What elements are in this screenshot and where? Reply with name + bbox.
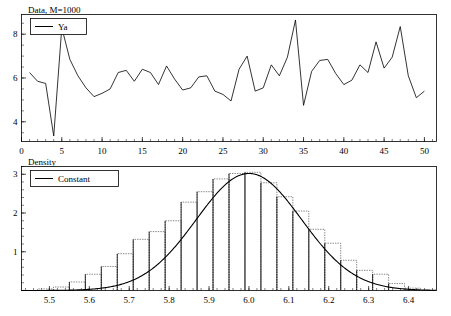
statistics-figure: Data, M=1000 468 05101520253035404550 Ya… bbox=[0, 0, 451, 316]
svg-text:2: 2 bbox=[13, 208, 18, 218]
svg-text:6.2: 6.2 bbox=[323, 295, 334, 305]
svg-text:4: 4 bbox=[13, 117, 18, 127]
svg-text:5.6: 5.6 bbox=[84, 295, 96, 305]
svg-text:25: 25 bbox=[218, 146, 228, 156]
legend-label-ya: Ya bbox=[58, 22, 68, 32]
svg-text:6.3: 6.3 bbox=[363, 295, 375, 305]
svg-text:3: 3 bbox=[13, 169, 18, 179]
svg-text:30: 30 bbox=[259, 146, 269, 156]
legend-label-constant: Constant bbox=[58, 174, 91, 184]
density-histogram bbox=[37, 172, 420, 290]
svg-text:6.1: 6.1 bbox=[283, 295, 294, 305]
svg-text:5.9: 5.9 bbox=[203, 295, 215, 305]
data-panel-y-axis: 468 bbox=[13, 23, 26, 132]
figure-container: Data, M=1000 468 05101520253035404550 Ya… bbox=[0, 0, 451, 316]
svg-text:0: 0 bbox=[19, 146, 24, 156]
svg-text:5.8: 5.8 bbox=[164, 295, 176, 305]
svg-text:5.5: 5.5 bbox=[44, 295, 56, 305]
svg-text:8: 8 bbox=[13, 29, 18, 39]
data-series-ya-line bbox=[30, 20, 425, 136]
svg-text:5.7: 5.7 bbox=[124, 295, 136, 305]
svg-text:50: 50 bbox=[420, 146, 430, 156]
svg-text:35: 35 bbox=[299, 146, 309, 156]
data-panel-x-axis: 05101520253035404550 bbox=[19, 137, 432, 156]
data-panel-title: Data, M=1000 bbox=[28, 5, 81, 15]
svg-text:5: 5 bbox=[60, 146, 65, 156]
density-panel-title: Density bbox=[28, 157, 56, 167]
svg-text:6.0: 6.0 bbox=[243, 295, 255, 305]
svg-text:15: 15 bbox=[138, 146, 148, 156]
svg-text:6.4: 6.4 bbox=[403, 295, 415, 305]
svg-text:10: 10 bbox=[98, 146, 108, 156]
svg-text:1: 1 bbox=[13, 247, 18, 257]
svg-text:45: 45 bbox=[380, 146, 390, 156]
data-panel-legend: Ya bbox=[31, 19, 87, 35]
density-panel-legend: Constant bbox=[31, 171, 119, 187]
svg-text:20: 20 bbox=[178, 146, 188, 156]
density-panel: Density 123 5.55.65.75.85.96.06.16.26.36… bbox=[13, 157, 437, 305]
data-panel: Data, M=1000 468 05101520253035404550 Ya bbox=[13, 5, 437, 156]
svg-text:6: 6 bbox=[13, 73, 18, 83]
svg-text:40: 40 bbox=[339, 146, 349, 156]
density-panel-y-axis: 123 bbox=[13, 167, 26, 291]
